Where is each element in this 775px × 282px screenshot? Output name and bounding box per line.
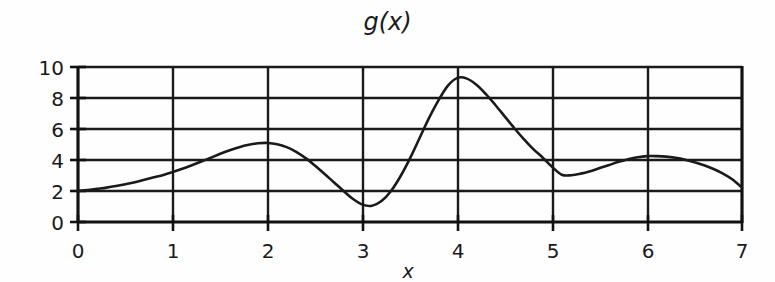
y-tick-label-10: 10 bbox=[39, 56, 64, 80]
x-tick-label-1: 1 bbox=[167, 239, 180, 263]
y-tick-label-2: 2 bbox=[51, 180, 64, 204]
y-tick-label-6: 6 bbox=[51, 118, 64, 142]
horizontal-gridlines bbox=[78, 67, 742, 191]
x-tick-label-4: 4 bbox=[452, 239, 465, 263]
plot-area: 10 8 6 4 2 0 0 1 2 3 4 5 6 7 x bbox=[0, 0, 775, 282]
x-tick-label-5: 5 bbox=[547, 239, 560, 263]
x-tick-label-6: 6 bbox=[642, 239, 655, 263]
y-tick-label-8: 8 bbox=[51, 87, 64, 111]
x-tick-label-7: 7 bbox=[736, 239, 749, 263]
x-tick-label-2: 2 bbox=[262, 239, 275, 263]
chart-figure: g(x) bbox=[0, 0, 775, 282]
x-axis-title: x bbox=[401, 260, 414, 282]
data-curve-g-of-x bbox=[78, 77, 742, 206]
x-tick-label-0: 0 bbox=[72, 239, 85, 263]
x-tick-label-3: 3 bbox=[357, 239, 370, 263]
y-tick-label-4: 4 bbox=[51, 149, 64, 173]
y-tick-label-0: 0 bbox=[51, 211, 64, 235]
